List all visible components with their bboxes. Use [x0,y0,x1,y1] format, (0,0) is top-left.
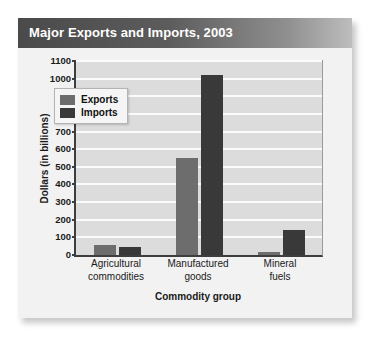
bar-imports-1 [201,75,223,255]
bar-exports-0 [94,245,116,255]
x-axis-category-label: Manufacturedgoods [167,258,228,283]
y-axis-tick-mark [72,254,76,256]
legend-swatch-exports [60,95,75,105]
bar-imports-0 [119,247,141,255]
y-axis-tick-mark [72,236,76,238]
y-axis-tick-label: 700 [25,127,71,137]
chart-title: Major Exports and Imports, 2003 [29,25,233,40]
y-axis-tick-label: 500 [25,162,71,172]
legend-label: Imports [81,107,118,118]
legend-label: Exports [81,94,118,105]
y-axis-tick-mark [72,60,76,62]
x-axis-category-label-line: Agricultural [88,258,144,271]
bar-imports-2 [283,230,305,255]
y-axis-tick-mark [72,201,76,203]
x-axis-title: Commodity group [74,291,322,302]
y-axis-tick-label: 400 [25,180,71,190]
y-axis-tick-label: 0 [25,250,71,260]
x-axis-category-label-line: Manufactured [167,258,228,271]
y-axis-tick-label: 1100 [25,56,71,66]
x-axis-category-label-line: Mineral [264,258,297,271]
chart-body: Dollars (in billions) 010020030040050060… [18,48,352,318]
x-axis-category-label: Agriculturalcommodities [88,258,144,283]
y-axis-tick-label: 600 [25,144,71,154]
x-axis-category-label-line: fuels [264,271,297,284]
chart-card: Major Exports and Imports, 2003 Dollars … [18,18,352,318]
chart-figure: Major Exports and Imports, 2003 Dollars … [0,0,368,347]
x-axis-category-label: Mineralfuels [264,258,297,283]
y-axis-tick-mark [72,166,76,168]
y-axis-tick-mark [72,131,76,133]
card-header: Major Exports and Imports, 2003 [18,18,352,48]
bar-exports-1 [176,158,198,255]
legend-item-imports: Imports [60,106,118,119]
legend-item-exports: Exports [60,93,118,106]
x-axis-category-labels: AgriculturalcommoditiesManufacturedgoods… [74,258,322,292]
y-axis-tick-label: 1000 [25,74,71,84]
bar-exports-2 [258,252,280,255]
y-axis-tick-label: 200 [25,215,71,225]
y-axis-tick-mark [72,219,76,221]
chart-legend: ExportsImports [54,88,128,124]
x-axis-category-label-line: goods [167,271,228,284]
y-axis-tick-label: 300 [25,197,71,207]
y-axis-tick-mark [72,78,76,80]
y-axis-tick-label: 100 [25,233,71,243]
y-axis-tick-mark [72,183,76,185]
x-axis-category-label-line: commodities [88,271,144,284]
legend-swatch-imports [60,108,75,118]
y-axis-tick-mark [72,148,76,150]
